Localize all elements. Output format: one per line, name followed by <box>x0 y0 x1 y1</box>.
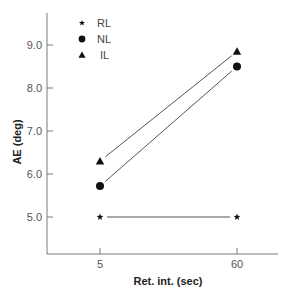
circle-marker-icon <box>96 182 104 190</box>
series-line <box>105 56 231 157</box>
triangle-marker-icon <box>78 51 85 57</box>
series-rl <box>97 213 241 220</box>
legend-label: IL <box>100 49 109 61</box>
x-axis-title: Ret. int. (sec) <box>133 275 202 287</box>
legend: RLNLIL <box>78 17 111 61</box>
line-chart: 5.06.07.08.09.0 560 RLNLIL Ret. int. (se… <box>0 0 287 299</box>
x-tick-label: 5 <box>97 258 103 270</box>
y-ticks: 5.06.07.08.09.0 <box>27 39 53 223</box>
circle-marker-icon <box>79 36 86 43</box>
y-axis-title: AE (deg) <box>11 119 23 165</box>
series-line <box>105 71 231 181</box>
legend-item-il: IL <box>78 49 109 61</box>
series-group <box>96 47 241 220</box>
star-marker-icon <box>234 213 241 220</box>
circle-marker-icon <box>233 63 241 71</box>
legend-item-nl: NL <box>79 33 111 45</box>
triangle-marker-icon <box>96 157 104 165</box>
y-tick-label: 6.0 <box>27 168 42 180</box>
star-marker-icon <box>79 20 85 26</box>
y-tick-label: 8.0 <box>27 82 42 94</box>
legend-label: NL <box>97 33 111 45</box>
x-tick-label: 60 <box>231 258 243 270</box>
series-il <box>96 47 241 164</box>
y-tick-label: 7.0 <box>27 125 42 137</box>
star-marker-icon <box>97 213 104 220</box>
legend-item-rl: RL <box>79 17 111 29</box>
y-tick-label: 5.0 <box>27 211 42 223</box>
axes <box>47 13 278 254</box>
legend-label: RL <box>97 17 111 29</box>
y-tick-label: 9.0 <box>27 39 42 51</box>
series-nl <box>96 63 241 191</box>
x-ticks: 560 <box>97 248 243 270</box>
triangle-marker-icon <box>233 47 241 55</box>
